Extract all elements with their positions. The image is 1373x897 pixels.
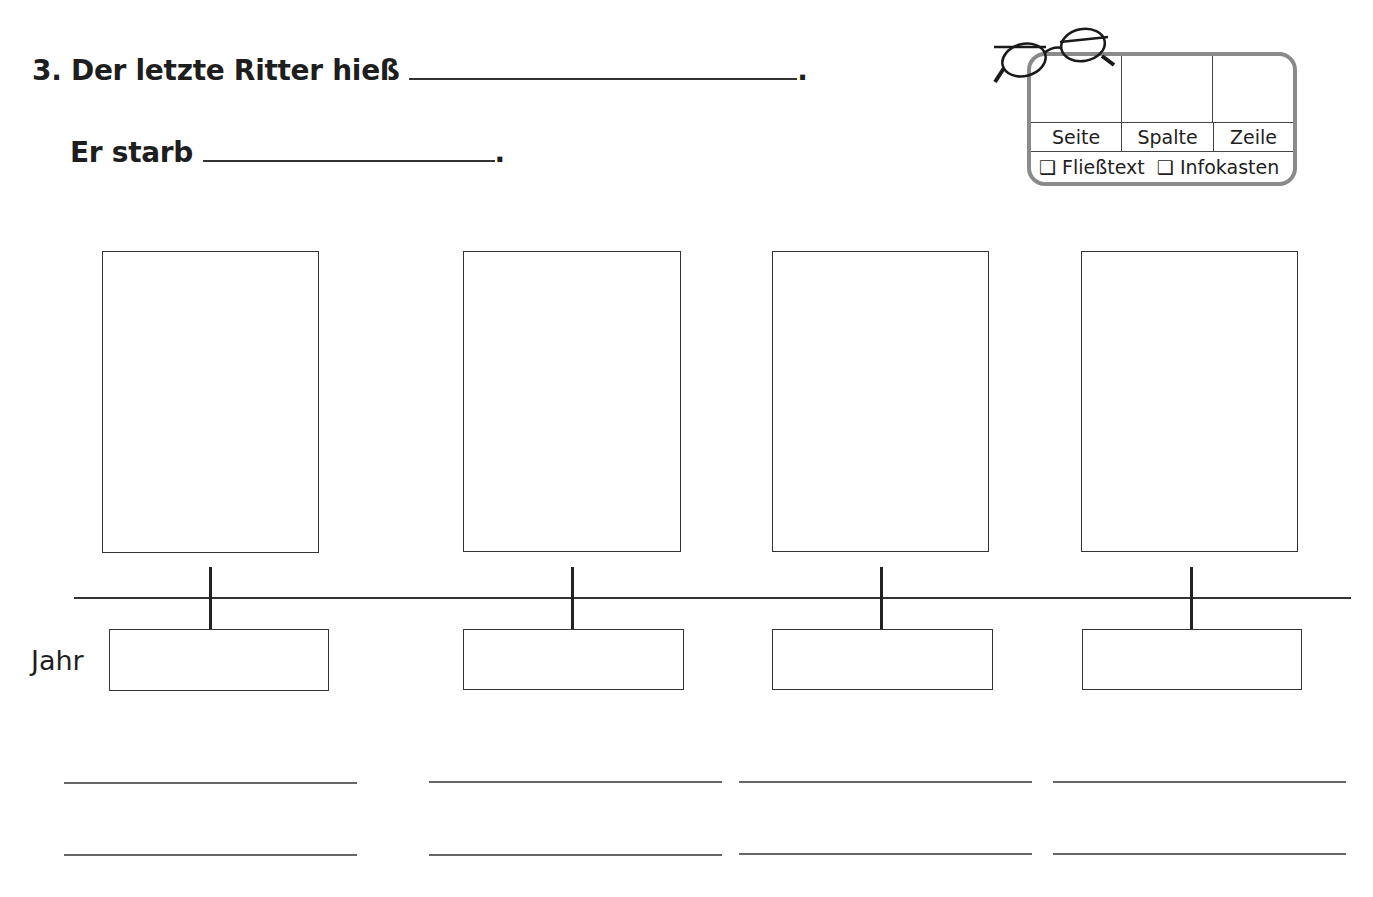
writing-line-4-1[interactable]: [1053, 781, 1346, 783]
question-line-2: Er starb .: [70, 136, 505, 169]
year-box-2[interactable]: [463, 629, 684, 690]
reference-labels: Seite Spalte Zeile: [1031, 122, 1293, 152]
writing-line-3-2[interactable]: [739, 853, 1032, 855]
checkbox-fliesstext[interactable]: ❑: [1039, 156, 1056, 178]
question-line-1: 3. Der letzte Ritter hieß .: [32, 54, 808, 87]
spalte-input-cell[interactable]: [1122, 56, 1213, 122]
year-box-3[interactable]: [772, 629, 993, 690]
timeline-picture-box-3[interactable]: [772, 251, 989, 552]
writing-line-2-1[interactable]: [429, 781, 722, 783]
timeline-tick-1: [209, 567, 212, 630]
label-seite: Seite: [1031, 123, 1122, 151]
question-text-knight: Der letzte Ritter hieß: [71, 54, 400, 87]
glasses-icon: [990, 20, 1125, 85]
answer-blank-death-year[interactable]: [203, 160, 495, 162]
year-box-4[interactable]: [1082, 629, 1302, 690]
writing-line-3-1[interactable]: [739, 781, 1032, 783]
year-box-1[interactable]: [109, 629, 329, 691]
answer-blank-knight-name[interactable]: [409, 78, 797, 80]
timeline-picture-box-2[interactable]: [463, 251, 681, 552]
source-options: ❑ Fließtext ❑ Infokasten: [1039, 152, 1293, 182]
timeline-picture-box-1[interactable]: [102, 251, 319, 553]
writing-line-4-2[interactable]: [1053, 853, 1346, 855]
timeline-tick-4: [1190, 567, 1193, 630]
label-infokasten: Infokasten: [1180, 156, 1279, 178]
label-fliesstext: Fließtext: [1062, 156, 1145, 178]
label-spalte: Spalte: [1122, 123, 1214, 151]
timeline-axis: [74, 597, 1351, 599]
timeline-picture-box-4[interactable]: [1081, 251, 1298, 552]
zeile-input-cell[interactable]: [1213, 56, 1295, 122]
checkbox-infokasten[interactable]: ❑: [1157, 156, 1174, 178]
timeline-tick-3: [880, 567, 883, 630]
label-zeile: Zeile: [1214, 123, 1293, 151]
writing-line-2-2[interactable]: [429, 854, 722, 856]
year-label: Jahr: [31, 645, 84, 676]
question-number: 3.: [32, 54, 62, 87]
writing-line-1-1[interactable]: [64, 782, 357, 784]
writing-line-1-2[interactable]: [64, 854, 357, 856]
question-text-died: Er starb: [70, 136, 193, 169]
timeline-tick-2: [571, 567, 574, 630]
